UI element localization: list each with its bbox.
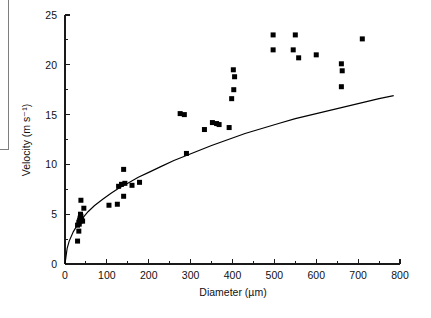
data-point-marker (75, 239, 80, 244)
y-tick-label: 15 (45, 109, 57, 121)
data-point-marker (271, 32, 276, 37)
data-point-marker (339, 84, 344, 89)
x-tick-label: 100 (98, 269, 116, 281)
data-point-marker (296, 55, 301, 60)
figure-root: 01002003004005006007008000510152025 Diam… (0, 0, 431, 318)
y-axis-title: Velocity (m s⁻¹) (20, 104, 32, 177)
data-point-marker (78, 198, 83, 203)
x-tick-label: 400 (224, 269, 242, 281)
data-point-marker (339, 61, 344, 66)
data-point-marker (106, 203, 111, 208)
y-tick-label: 10 (45, 158, 57, 170)
data-point-marker (202, 127, 207, 132)
x-tick-label: 200 (140, 269, 158, 281)
data-point-marker (360, 36, 365, 41)
fit-curve-group (65, 96, 394, 264)
data-points-group (75, 32, 365, 243)
data-point-marker (340, 68, 345, 73)
fit-curve (65, 96, 394, 264)
data-point-marker (227, 125, 232, 130)
axes-group (65, 15, 400, 264)
x-tick-label: 800 (391, 269, 409, 281)
data-point-marker (122, 181, 127, 186)
data-point-marker (80, 219, 85, 224)
data-point-marker (130, 183, 135, 188)
x-tick-label: 500 (266, 269, 284, 281)
x-tick-label: 600 (307, 269, 325, 281)
tick-marks-group (65, 15, 400, 264)
data-point-marker (232, 74, 237, 79)
data-point-marker (81, 206, 86, 211)
data-point-marker (184, 151, 189, 156)
data-point-marker (121, 167, 126, 172)
data-point-marker (291, 47, 296, 52)
x-tick-label: 700 (349, 269, 367, 281)
y-tick-label: 0 (51, 258, 57, 270)
data-point-marker (229, 96, 234, 101)
data-point-marker (231, 87, 236, 92)
data-point-marker (271, 47, 276, 52)
x-tick-label: 300 (182, 269, 200, 281)
data-point-marker (314, 52, 319, 57)
data-point-marker (293, 32, 298, 37)
data-point-marker (78, 212, 83, 217)
x-axis-title: Diameter (µm) (199, 286, 266, 298)
data-point-marker (76, 229, 81, 234)
y-tick-label: 25 (45, 9, 57, 21)
data-point-marker (137, 180, 142, 185)
data-point-marker (121, 194, 126, 199)
data-point-marker (217, 122, 222, 127)
data-point-marker (182, 112, 187, 117)
data-point-marker (115, 202, 120, 207)
x-tick-label: 0 (62, 269, 68, 281)
y-tick-label: 20 (45, 59, 57, 71)
tick-labels-group: 01002003004005006007008000510152025 (45, 9, 409, 281)
y-tick-label: 5 (51, 208, 57, 220)
data-point-marker (231, 67, 236, 72)
scatter-plot-canvas: 01002003004005006007008000510152025 Diam… (0, 0, 431, 318)
